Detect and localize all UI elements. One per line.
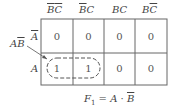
cell-r0-c1: 0	[73, 32, 104, 42]
cell-r1-c0: 1	[41, 64, 73, 74]
cell-r0-c2: 0	[104, 32, 135, 42]
row-header-0: A	[31, 32, 38, 42]
col-header-3: BC	[142, 5, 157, 15]
col-header-2: BC	[112, 5, 127, 15]
group-label: AB	[10, 39, 25, 49]
cell-r1-c2: 0	[104, 64, 135, 74]
row-header-1: A	[31, 64, 38, 74]
cell-r0-c0: 0	[41, 32, 73, 42]
karnaugh-map: BC BC BC BC A A AB 0 0 0 0 1 1 0 0 F1 = …	[0, 0, 173, 109]
col-header-1: BC	[79, 5, 94, 15]
cell-r1-c1: 1	[73, 64, 104, 74]
col-header-0: BC	[47, 5, 62, 15]
cell-r1-c3: 0	[135, 64, 167, 74]
equation: F1 = A · B	[84, 94, 134, 108]
cell-r0-c3: 0	[135, 32, 167, 42]
